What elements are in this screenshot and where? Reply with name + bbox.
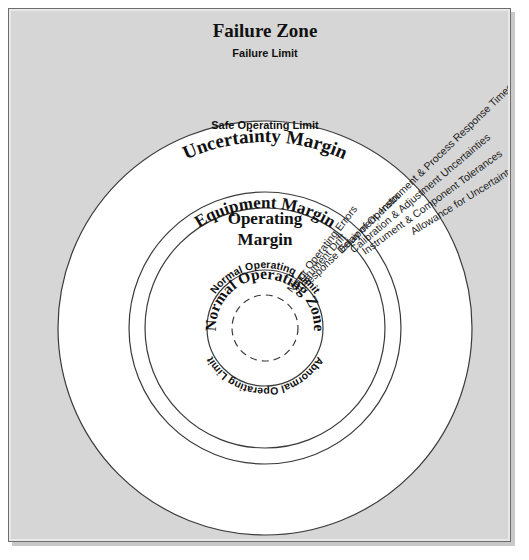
frame-shadow-bottom [12, 542, 515, 546]
label-safe-operating-limit: Safe Operating Limit [211, 119, 319, 131]
label-failure-limit: Failure Limit [232, 47, 298, 59]
diagram-root: Failure Zone Failure Limit Uncertainty M… [0, 0, 529, 560]
diagram-frame: Failure Zone Failure Limit Uncertainty M… [8, 8, 511, 542]
label-operating-margin-line1: Operating [228, 209, 303, 228]
label-operating-margin-line2: Margin [238, 230, 293, 249]
label-failure-zone: Failure Zone [213, 20, 318, 41]
ring-inner-dashed [232, 295, 298, 361]
frame-shadow-right [511, 12, 515, 546]
diagram-stage: Failure Zone Failure Limit Uncertainty M… [9, 9, 511, 542]
concentric-zone-svg: Failure Zone Failure Limit Uncertainty M… [9, 9, 511, 542]
